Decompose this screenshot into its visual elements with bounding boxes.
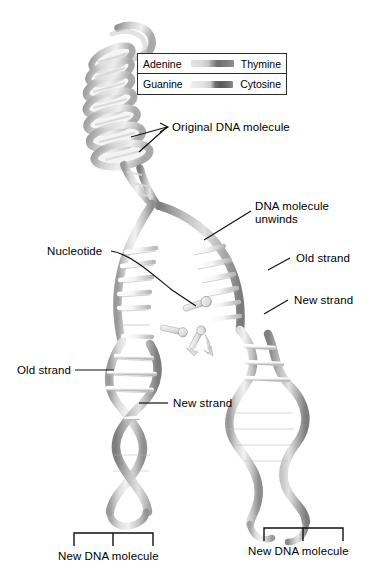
label-nucleotide: Nucleotide bbox=[47, 245, 102, 258]
base-pair-legend: Adenine Thymine Guanine Cytosine bbox=[137, 53, 287, 95]
legend-label-adenine: Adenine bbox=[143, 58, 189, 70]
label-new-dna-molecule-left: New DNA molecule bbox=[58, 550, 159, 563]
label-old-strand-right: Old strand bbox=[296, 252, 350, 265]
label-new-dna-molecule-right: New DNA molecule bbox=[248, 545, 349, 558]
legend-label-cytosine: Cytosine bbox=[235, 78, 281, 90]
legend-row-guanine-cytosine: Guanine Cytosine bbox=[138, 74, 286, 94]
left-daughter-helix bbox=[108, 342, 158, 526]
label-original-dna-molecule: Original DNA molecule bbox=[172, 121, 290, 134]
guanine-cytosine-bar bbox=[191, 81, 233, 88]
legend-label-guanine: Guanine bbox=[143, 78, 189, 90]
right-daughter-helix bbox=[226, 330, 306, 542]
label-new-strand-left: New strand bbox=[173, 397, 232, 410]
label-dna-molecule-unwinds-line2: unwinds bbox=[255, 213, 298, 226]
label-dna-molecule-unwinds-line1: DNA molecule bbox=[255, 200, 329, 213]
dna-replication-figure: Adenine Thymine Guanine Cytosine Origina… bbox=[0, 0, 373, 582]
legend-label-thymine: Thymine bbox=[236, 58, 281, 70]
bracket-lines bbox=[74, 528, 343, 546]
replication-fork bbox=[118, 204, 241, 356]
legend-row-adenine-thymine: Adenine Thymine bbox=[138, 54, 286, 74]
free-nucleotides bbox=[159, 295, 213, 356]
adenine-thymine-bar bbox=[191, 60, 234, 67]
label-new-strand-right: New strand bbox=[294, 294, 353, 307]
label-old-strand-left: Old strand bbox=[17, 364, 71, 377]
original-dna-helix bbox=[83, 25, 152, 170]
